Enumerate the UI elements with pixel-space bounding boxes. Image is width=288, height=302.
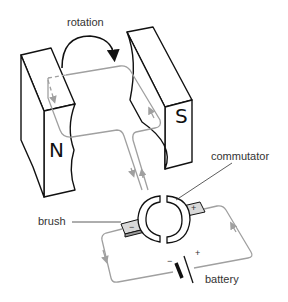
north-magnet — [21, 48, 75, 197]
rotation-label: rotation — [67, 16, 104, 28]
external-circuit — [102, 206, 252, 282]
south-pole-letter: S — [175, 104, 188, 128]
battery-label: battery — [205, 273, 239, 285]
brush-negative-sign: − — [129, 222, 134, 232]
north-pole-letter: N — [49, 138, 64, 162]
battery-negative-sign: − — [167, 256, 172, 266]
commutator-leader — [176, 163, 232, 200]
south-magnet — [127, 27, 192, 169]
brush-label: brush — [38, 215, 66, 227]
commutator — [138, 196, 190, 243]
brush-positive-sign: + — [191, 203, 196, 213]
battery-symbol — [176, 256, 193, 283]
battery-positive-sign: + — [195, 248, 200, 258]
commutator-label: commutator — [211, 150, 269, 162]
rotation-arrow — [62, 36, 114, 68]
